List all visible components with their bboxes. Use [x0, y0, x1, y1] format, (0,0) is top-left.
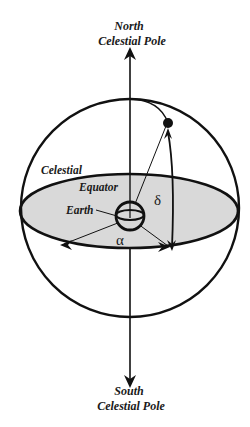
star-icon	[163, 118, 173, 128]
delta-symbol: δ	[154, 192, 161, 208]
south-pole-label-line2: Celestial Pole	[97, 399, 165, 413]
celestial-sphere-diagram: North Celestial Pole South Celestial Pol…	[0, 0, 250, 427]
celestial-label: Celestial	[41, 164, 83, 176]
north-pole-label-line1: North	[113, 19, 144, 33]
equator-label: Equator	[78, 181, 119, 194]
north-pole-label-line2: Celestial Pole	[98, 34, 166, 48]
earth-label: Earth	[65, 204, 94, 216]
hour-circle-arc	[130, 99, 168, 123]
alpha-symbol: α	[116, 232, 124, 248]
south-pole-label-line1: South	[114, 384, 144, 398]
